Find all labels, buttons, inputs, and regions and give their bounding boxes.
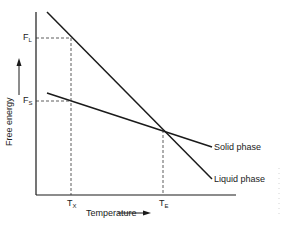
liquid-phase-line bbox=[47, 12, 212, 179]
x-axis-label: Temperature bbox=[86, 208, 137, 218]
x-tick-tx: TX bbox=[67, 198, 77, 208]
solid-phase-label: Solid phase bbox=[214, 142, 261, 152]
y-tick-fs: FS bbox=[23, 95, 33, 105]
y-tick-fl: FL bbox=[23, 32, 32, 42]
liquid-phase-label: Liquid phase bbox=[214, 174, 265, 184]
free-energy-diagram bbox=[0, 0, 282, 230]
x-axis-arrow-icon bbox=[143, 211, 151, 216]
x-tick-te: TE bbox=[159, 198, 169, 208]
y-axis-arrow-icon bbox=[17, 58, 22, 66]
y-axis-label: Free energy bbox=[4, 97, 14, 146]
solid-phase-line bbox=[47, 93, 212, 147]
